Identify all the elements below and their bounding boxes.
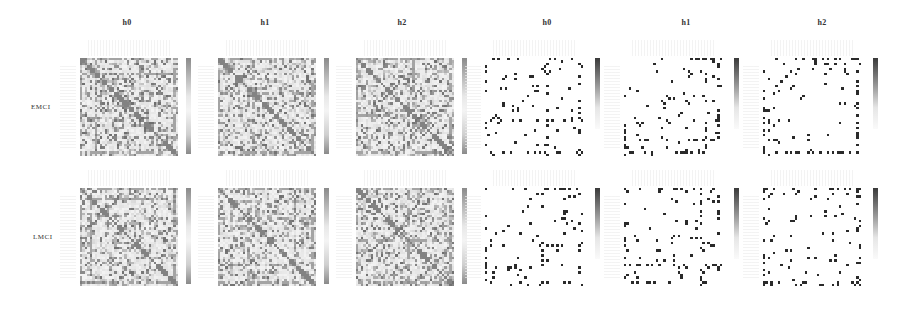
tick-labels-top bbox=[226, 170, 308, 186]
colorbar bbox=[324, 58, 329, 154]
heatmap-emci-dense-h1 bbox=[218, 58, 316, 156]
matrix-canvas bbox=[80, 188, 178, 286]
matrix-canvas bbox=[356, 58, 454, 156]
column-header-right-h2: h2 bbox=[817, 18, 826, 27]
heatmap-emci-sparse-h1 bbox=[624, 58, 722, 156]
matrix-canvas bbox=[485, 58, 583, 156]
column-header-right-h1: h1 bbox=[681, 18, 690, 27]
tick-labels-top bbox=[493, 40, 575, 56]
matrix-canvas bbox=[763, 188, 861, 286]
tick-labels-left bbox=[465, 196, 481, 278]
colorbar bbox=[873, 188, 878, 259]
matrix-canvas bbox=[80, 58, 178, 156]
tick-labels-left bbox=[198, 66, 214, 148]
matrix-canvas bbox=[218, 58, 316, 156]
heatmap-lmci-sparse-h1 bbox=[624, 188, 722, 286]
tick-labels-left bbox=[198, 196, 214, 278]
tick-labels-top bbox=[226, 40, 308, 56]
tick-labels-top bbox=[632, 40, 714, 56]
column-header-left-h1: h1 bbox=[260, 18, 269, 27]
tick-labels-left bbox=[60, 66, 76, 148]
tick-labels-left bbox=[743, 66, 759, 148]
heatmap-lmci-sparse-h0 bbox=[485, 188, 583, 286]
column-header-left-h2: h2 bbox=[397, 18, 406, 27]
heatmap-lmci-sparse-h2 bbox=[763, 188, 861, 286]
tick-labels-left bbox=[336, 196, 352, 278]
colorbar bbox=[186, 188, 191, 284]
tick-labels-top bbox=[771, 170, 853, 186]
row-label-emci: EMCI bbox=[31, 103, 51, 111]
heatmap-emci-dense-h0 bbox=[80, 58, 178, 156]
matrix-canvas bbox=[218, 188, 316, 286]
tick-labels-left bbox=[743, 196, 759, 278]
matrix-canvas bbox=[624, 188, 722, 286]
heatmap-emci-dense-h2 bbox=[356, 58, 454, 156]
colorbar bbox=[595, 58, 600, 129]
tick-labels-top bbox=[88, 170, 170, 186]
column-header-right-h0: h0 bbox=[542, 18, 551, 27]
colorbar bbox=[734, 188, 739, 259]
colorbar bbox=[595, 188, 600, 259]
tick-labels-top bbox=[364, 170, 446, 186]
matrix-canvas bbox=[763, 58, 861, 156]
colorbar bbox=[734, 58, 739, 129]
column-header-left-h0: h0 bbox=[122, 18, 131, 27]
tick-labels-left bbox=[604, 66, 620, 148]
matrix-canvas bbox=[624, 58, 722, 156]
matrix-canvas bbox=[356, 188, 454, 286]
heatmap-emci-sparse-h2 bbox=[763, 58, 861, 156]
colorbar bbox=[186, 58, 191, 154]
heatmap-lmci-dense-h1 bbox=[218, 188, 316, 286]
tick-labels-left bbox=[336, 66, 352, 148]
tick-labels-top bbox=[771, 40, 853, 56]
colorbar bbox=[873, 58, 878, 129]
heatmap-emci-sparse-h0 bbox=[485, 58, 583, 156]
heatmap-lmci-dense-h0 bbox=[80, 188, 178, 286]
tick-labels-left bbox=[465, 66, 481, 148]
colorbar bbox=[324, 188, 329, 284]
heatmap-lmci-dense-h2 bbox=[356, 188, 454, 286]
tick-labels-left bbox=[60, 196, 76, 278]
tick-labels-top bbox=[88, 40, 170, 56]
tick-labels-top bbox=[493, 170, 575, 186]
tick-labels-top bbox=[364, 40, 446, 56]
tick-labels-left bbox=[604, 196, 620, 278]
row-label-lmci: LMCI bbox=[33, 233, 53, 241]
matrix-canvas bbox=[485, 188, 583, 286]
tick-labels-top bbox=[632, 170, 714, 186]
